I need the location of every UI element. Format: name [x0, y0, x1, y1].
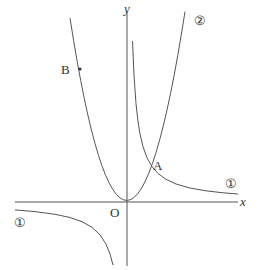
- x-axis-label: x: [239, 194, 246, 209]
- curve-1-label-left: ①: [14, 215, 26, 230]
- curve-2-label: ②: [194, 13, 206, 28]
- hyperbola-curve-1-left-branch: [15, 210, 113, 265]
- diagram-canvas: B A y x O ② ① ①: [0, 0, 261, 270]
- origin-label: O: [110, 205, 119, 220]
- hyperbola-curve-1-right-branch: [133, 41, 239, 194]
- y-axis-label: y: [122, 1, 130, 16]
- point-b-label: B: [61, 62, 70, 77]
- point-b-marker: [78, 67, 81, 70]
- point-a-label: A: [153, 158, 163, 173]
- curve-1-label-right: ①: [225, 176, 237, 191]
